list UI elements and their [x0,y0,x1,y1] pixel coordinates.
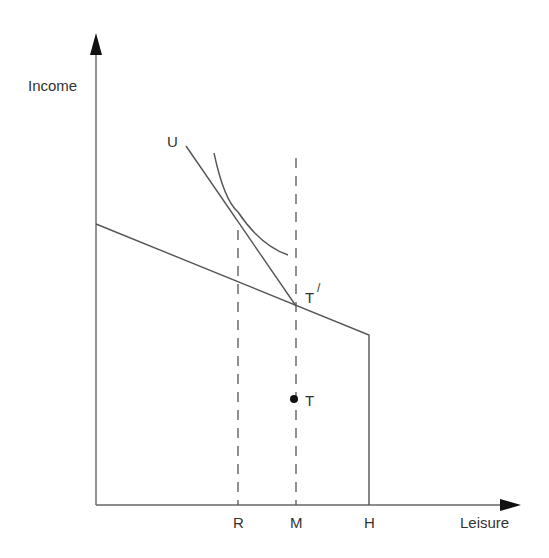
point-label-t-prime: T [305,290,314,305]
x-axis-label: Leisure [460,515,509,530]
x-axis-arrow-icon [500,499,521,511]
y-axis-label: Income [28,78,77,93]
tangent-line [186,146,296,306]
x-tick-h: H [364,515,375,530]
budget-line [96,224,369,505]
y-axis-arrow-icon [90,33,102,55]
point-label-t-prime-mark: / [317,282,320,294]
x-tick-m: M [290,515,303,530]
x-tick-r: R [233,515,244,530]
diagram-canvas [0,0,549,558]
point-t [290,395,298,403]
point-label-t: T [305,393,314,408]
curve-label-u: U [167,134,178,149]
